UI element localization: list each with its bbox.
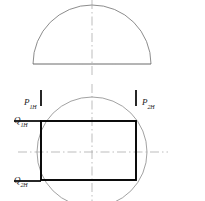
label-p1h: P1H [24, 92, 36, 110]
drawing-canvas: P1H P2H Q1H Q2H [0, 0, 205, 201]
label-q2h-subscript: 2H [21, 182, 28, 188]
label-p1h-subscript: 1H [30, 104, 37, 110]
label-q1h-subscript: 1H [21, 122, 28, 128]
top-view-group [33, 0, 151, 78]
inscribed-rectangle [41, 121, 136, 180]
label-p2h-subscript: 2H [148, 104, 155, 110]
label-p2h: P2H [142, 92, 154, 110]
label-q2h: Q2H [14, 170, 27, 188]
label-q1h: Q1H [14, 110, 27, 128]
